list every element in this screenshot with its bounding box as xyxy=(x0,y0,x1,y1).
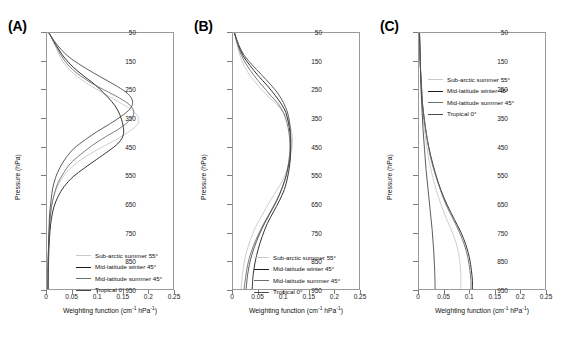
y-axis-tick-mark xyxy=(413,147,418,148)
panel-b-xaxis-label: Weighting function (cm-1 hPa-1) xyxy=(232,306,360,314)
panel-c-yaxis-label: Pressure (hPa) xyxy=(386,154,393,200)
legend-item-label: Sub-arctic summer 55° xyxy=(95,253,158,259)
legend-item-label: Mid-latitude summer 45° xyxy=(273,278,340,284)
y-axis-tick-mark xyxy=(41,32,46,33)
y-axis-tick-label: 150 xyxy=(125,57,136,64)
y-axis-tick-label: 650 xyxy=(125,201,136,208)
y-axis-tick-label: 250 xyxy=(125,86,136,93)
series-line xyxy=(235,33,290,289)
legend-item: Mid-latitude summer 45° xyxy=(254,275,340,287)
y-axis-tick-mark xyxy=(413,175,418,176)
y-axis-tick-label: 150 xyxy=(311,57,322,64)
x-axis-tick-mark xyxy=(546,290,547,294)
y-axis-tick-label: 650 xyxy=(311,201,322,208)
legend-item-label: Tropical 0° xyxy=(273,289,302,295)
legend-color-swatch xyxy=(428,114,443,115)
y-axis-tick-mark xyxy=(41,61,46,62)
panel-b-yaxis-label: Pressure (hPa) xyxy=(200,154,207,200)
legend-color-swatch xyxy=(76,290,91,291)
x-axis-tick-mark xyxy=(469,290,470,294)
y-axis-tick-label: 850 xyxy=(497,258,508,265)
y-axis-tick-label: 750 xyxy=(311,229,322,236)
xaxis-text-c3: ) xyxy=(527,307,529,314)
xaxis-text-c2: hPa xyxy=(508,307,522,314)
panel-b-letter: (B) xyxy=(194,18,213,34)
y-axis-tick-mark xyxy=(227,204,232,205)
legend-color-swatch xyxy=(76,267,91,268)
y-axis-tick-mark xyxy=(41,118,46,119)
x-axis-tick-label: 0.05 xyxy=(437,293,450,300)
x-axis-tick-mark xyxy=(418,290,419,294)
y-axis-tick-mark xyxy=(413,32,418,33)
xaxis-text-b1: Weighting function (cm xyxy=(249,307,318,314)
legend-item-label: Sub-arctic summer 55° xyxy=(273,255,336,261)
x-axis-tick-label: 0.15 xyxy=(488,293,501,300)
x-axis-tick-mark xyxy=(444,290,445,294)
y-axis-tick-mark xyxy=(41,233,46,234)
panel-b-legend: Sub-arctic summer 55°Mid-latitude winter… xyxy=(254,252,340,298)
panel-b: (B) WV 7.3 μm 50150250350450550650750850… xyxy=(186,0,372,346)
legend-item: Sub-arctic summer 55° xyxy=(428,74,514,86)
xaxis-text-b3: ) xyxy=(341,307,343,314)
legend-item-label: Mid-latitude winter 45° xyxy=(95,264,156,270)
panel-a-xaxis-label: Weighting function (cm-1 hPa-1) xyxy=(46,306,174,314)
y-axis-tick-label: 50 xyxy=(129,29,136,36)
y-axis-tick-mark xyxy=(227,61,232,62)
y-axis-tick-mark xyxy=(41,89,46,90)
y-axis-tick-label: 550 xyxy=(311,172,322,179)
y-axis-tick-label: 450 xyxy=(497,143,508,150)
series-line xyxy=(420,33,471,289)
y-axis-tick-mark xyxy=(413,61,418,62)
series-line xyxy=(420,33,436,289)
legend-color-swatch xyxy=(428,102,443,103)
y-axis-tick-label: 150 xyxy=(497,57,508,64)
panel-a-legend: Sub-arctic summer 55°Mid-latitude winter… xyxy=(76,250,162,296)
y-axis-tick-mark xyxy=(227,89,232,90)
y-axis-tick-label: 50 xyxy=(315,29,322,36)
panel-c: (C) IR 8.7 μm 50150250350450550650750850… xyxy=(372,0,558,346)
legend-item: Sub-arctic summer 55° xyxy=(254,252,340,264)
y-axis-tick-mark xyxy=(227,175,232,176)
legend-item: Mid-latitude winter 45° xyxy=(254,264,340,276)
legend-item: Tropical 0° xyxy=(76,285,162,297)
series-line xyxy=(235,33,293,289)
x-axis-tick-label: 0.1 xyxy=(465,293,474,300)
legend-color-swatch xyxy=(254,280,269,281)
panel-a: (A) WV 6.2 μm 50150250350450550650750850… xyxy=(0,0,186,346)
y-axis-tick-label: 550 xyxy=(497,172,508,179)
y-axis-tick-label: 450 xyxy=(125,143,136,150)
legend-item-label: Tropical 0° xyxy=(95,287,124,293)
x-axis-tick-label: 0.25 xyxy=(168,293,181,300)
x-axis-tick-mark xyxy=(520,290,521,294)
legend-item: Mid-latitude winter 45° xyxy=(428,86,514,98)
x-axis-tick-mark xyxy=(495,290,496,294)
legend-item-label: Mid-latitude winter 45° xyxy=(447,88,508,94)
x-axis-tick-mark xyxy=(72,290,73,294)
panel-a-yaxis-label: Pressure (hPa) xyxy=(14,154,21,200)
y-axis-tick-label: 250 xyxy=(311,86,322,93)
y-axis-tick-label: 350 xyxy=(311,115,322,122)
x-axis-tick-label: 0.25 xyxy=(540,293,553,300)
x-axis-tick-label: 0 xyxy=(230,293,234,300)
legend-item: Mid-latitude winter 45° xyxy=(76,262,162,274)
x-axis-tick-label: 0.25 xyxy=(354,293,367,300)
legend-item-label: Mid-latitude winter 45° xyxy=(273,266,334,272)
legend-item-label: Mid-latitude summer 45° xyxy=(95,276,162,282)
series-line xyxy=(235,33,291,289)
legend-color-swatch xyxy=(254,257,269,258)
y-axis-tick-mark xyxy=(413,204,418,205)
y-axis-tick-mark xyxy=(413,233,418,234)
y-axis-tick-label: 650 xyxy=(497,201,508,208)
y-axis-tick-mark xyxy=(227,118,232,119)
y-axis-tick-mark xyxy=(41,261,46,262)
x-axis-tick-mark xyxy=(360,290,361,294)
legend-item: Mid-latitude summer 45° xyxy=(76,273,162,285)
series-line xyxy=(235,33,291,289)
xaxis-text-c1: Weighting function (cm xyxy=(435,307,504,314)
panel-c-legend: Sub-arctic summer 55°Mid-latitude winter… xyxy=(428,74,514,120)
legend-item: Tropical 0° xyxy=(254,287,340,299)
x-axis-tick-mark xyxy=(46,290,47,294)
y-axis-tick-label: 450 xyxy=(311,143,322,150)
legend-item: Tropical 0° xyxy=(428,109,514,121)
legend-color-swatch xyxy=(428,91,443,92)
